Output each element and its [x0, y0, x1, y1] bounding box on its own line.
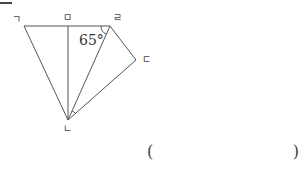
answer-open-paren: (: [147, 142, 153, 161]
edge-giyeok-nieun: [24, 26, 68, 120]
vertex-label-rieul: ㄹ: [113, 13, 122, 23]
vertex-label-giyeok: ㄱ: [12, 15, 21, 25]
answer-close-paren: ): [293, 142, 299, 161]
vertex-label-digeut: ㄷ: [142, 55, 151, 65]
angle-arc-nieun: [72, 111, 75, 114]
edge-digeut-nieun: [68, 60, 136, 120]
vertex-label-mieum: ㅁ: [63, 13, 72, 23]
angle-label-65: 65°: [79, 33, 104, 47]
answer-field[interactable]: ( ): [147, 142, 299, 162]
vertex-label-nieun: ㄴ: [63, 124, 72, 134]
edge-rieul-digeut: [110, 26, 136, 60]
